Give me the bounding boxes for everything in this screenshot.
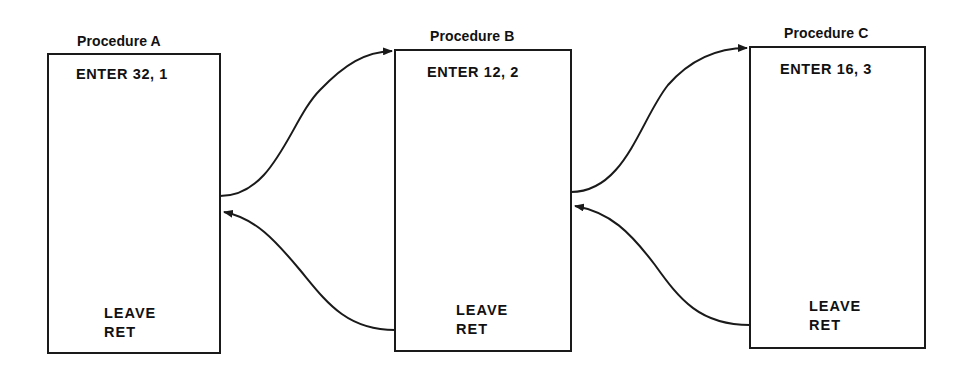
return-arrow-b-to-a: [224, 212, 395, 330]
call-return-arrows: [0, 0, 966, 376]
call-arrow-a-to-b: [220, 51, 392, 196]
call-arrow-b-to-c: [571, 48, 747, 192]
return-arrow-c-to-b: [575, 206, 750, 325]
